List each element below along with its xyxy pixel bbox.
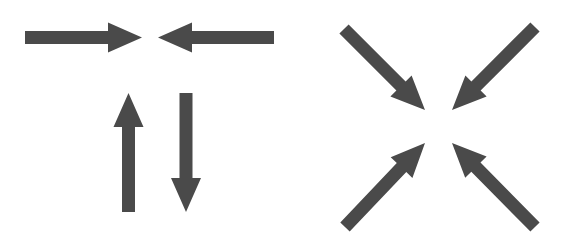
- arrow-right-icon: [25, 23, 142, 53]
- diagonal-arrows-group: [339, 22, 539, 231]
- converging-arrows-diagram: [0, 0, 563, 240]
- arrow-left-icon: [158, 23, 274, 53]
- arrow-down-icon: [171, 93, 201, 212]
- arrow-up-left-icon: [452, 143, 540, 232]
- arrow-down-right-icon: [339, 24, 425, 110]
- arrow-down-left-icon: [452, 22, 540, 110]
- orthogonal-arrows-group: [25, 23, 274, 213]
- arrow-up-icon: [114, 93, 144, 212]
- arrow-up-right-icon: [340, 143, 425, 232]
